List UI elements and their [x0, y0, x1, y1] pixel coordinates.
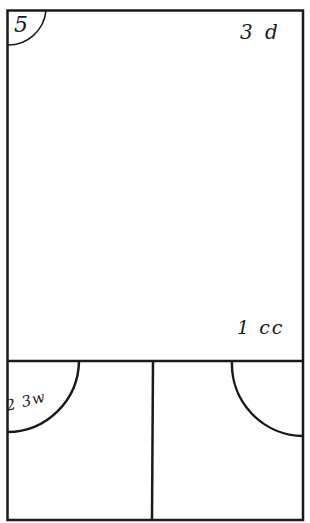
corner-number-label: 5 [14, 14, 28, 36]
door-swing-right-icon [232, 361, 303, 436]
main-room-sub-label: 1 cc [237, 318, 284, 337]
vertical-divider-wall [152, 361, 153, 520]
outer-wall [8, 11, 304, 521]
floor-plan [0, 0, 310, 523]
main-room-label: 3 d [240, 22, 281, 42]
